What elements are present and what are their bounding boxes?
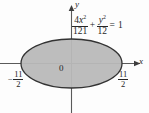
left-intercept-denominator: 2: [13, 79, 23, 89]
equation-equals-sign: =: [108, 21, 116, 31]
ellipse-equation: 4x2 121 + y2 12 =1: [72, 16, 124, 36]
left-intercept-numerator: 11: [13, 70, 23, 79]
right-intercept-fraction: 11 2: [118, 70, 128, 88]
y-axis-label: y: [75, 0, 79, 9]
equation-plus-operator: +: [88, 21, 96, 31]
right-intercept-denominator: 2: [118, 79, 128, 89]
left-x-intercept-label: − 11 2: [8, 70, 23, 88]
equation-term-2: y2 12: [97, 16, 109, 36]
origin-label: 0: [59, 64, 64, 73]
equation-term-1: 4x2 121: [72, 16, 88, 36]
ellipse-curve: [21, 39, 122, 88]
equation-term-2-denominator: 12: [97, 26, 109, 37]
equation-term-1-denominator: 121: [72, 26, 88, 37]
right-x-intercept-label: 11 2: [118, 70, 128, 88]
ellipse-figure: 4x2 121 + y2 12 =1 y x 0 − 11 2 11 2: [0, 0, 149, 113]
right-intercept-numerator: 11: [118, 70, 128, 79]
equation-term-1-numerator: 4x2: [72, 16, 88, 26]
left-intercept-fraction: 11 2: [13, 70, 23, 88]
x-axis-label: x: [139, 57, 143, 66]
equation-right-hand-side: 1: [116, 21, 124, 31]
y-axis-arrowhead: [69, 5, 75, 11]
equation-term-2-numerator: y2: [97, 16, 109, 26]
